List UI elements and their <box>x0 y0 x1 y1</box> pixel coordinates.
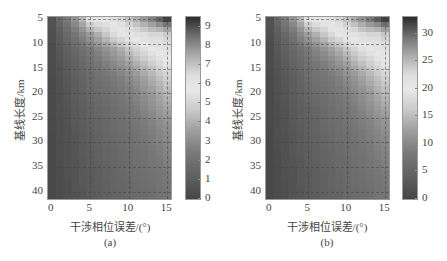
colorbar-tick-label: 0 <box>422 192 428 203</box>
y-tick-label: 40 <box>237 185 261 196</box>
y-tick-label: 20 <box>237 86 261 97</box>
colorbar-tick-mark <box>415 33 418 34</box>
colorbar-tick-label: 15 <box>422 109 433 120</box>
x-tick-label: 10 <box>336 201 356 213</box>
x-axis-label-b: 干涉相位误差/(°) <box>267 218 387 234</box>
colorbar-tick-label: 20 <box>422 82 433 93</box>
x-tick-label: 15 <box>374 201 394 213</box>
y-tick-label: 15 <box>237 62 261 73</box>
colorbar-tick-mark <box>415 143 418 144</box>
y-tick-label: 35 <box>237 160 261 171</box>
grid-line-horizontal <box>266 142 389 143</box>
colorbar-tick-mark <box>415 60 418 61</box>
panel-b: 基线长度/km 干涉相位误差/(°) (b) 51015202530354005… <box>0 0 223 261</box>
heatmap-plot-b <box>265 16 390 200</box>
colorbar-tick-label: 10 <box>422 137 433 148</box>
colorbar-tick-mark <box>415 88 418 89</box>
caption-b: (b) <box>312 236 342 248</box>
grid-line-horizontal <box>266 69 389 70</box>
y-tick-label: 30 <box>237 135 261 146</box>
x-tick-label: 0 <box>259 201 279 213</box>
colorbar-tick-label: 5 <box>422 164 428 175</box>
colorbar-tick-label: 25 <box>422 54 433 65</box>
grid-line-horizontal <box>266 93 389 94</box>
colorbar-tick-label: 30 <box>422 27 433 38</box>
y-tick-label: 10 <box>237 37 261 48</box>
colorbar-tick-mark <box>415 170 418 171</box>
grid-line-horizontal <box>266 118 389 119</box>
grid-line-horizontal <box>266 167 389 168</box>
colorbar-tick-mark <box>415 115 418 116</box>
grid-line-horizontal <box>266 44 389 45</box>
y-tick-label: 5 <box>237 12 261 23</box>
colorbar-b <box>402 16 418 200</box>
y-tick-label: 25 <box>237 111 261 122</box>
grid-line-horizontal <box>266 19 389 20</box>
colorbar-tick-mark <box>415 198 418 199</box>
x-tick-label: 5 <box>297 201 317 213</box>
grid-line-horizontal <box>266 192 389 193</box>
